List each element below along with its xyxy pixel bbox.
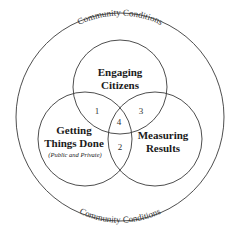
measuring-results-label-line2: Results [146,142,181,154]
region-number-1: 1 [95,106,100,116]
venn-diagram: Community Conditions Community Condition… [0,0,238,232]
outer-label-bottom: Community Conditions [78,206,162,225]
venn-svg: Community Conditions Community Condition… [0,0,238,232]
getting-things-done-sublabel: (Public and Private) [48,151,101,159]
region-number-2: 2 [118,142,123,152]
region-number-4: 4 [117,117,122,127]
getting-things-done-label-line2: Things Done [44,137,104,149]
outer-label-top: Community Conditions [76,7,165,27]
measuring-results-label-line1: Measuring [138,129,189,141]
region-number-3: 3 [139,106,144,116]
engaging-citizens-label-line2: Citizens [101,79,140,91]
getting-things-done-label-line1: Getting [56,124,92,136]
engaging-citizens-label-line1: Engaging [98,66,143,78]
